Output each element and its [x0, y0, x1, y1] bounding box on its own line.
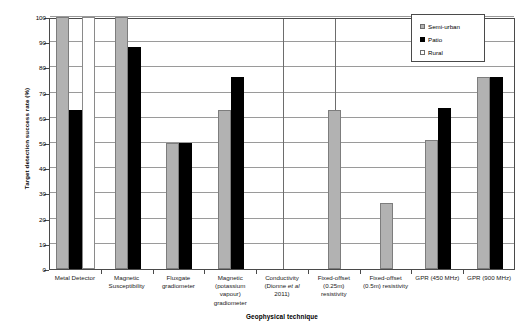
bar: [115, 17, 128, 269]
legend-item-label: Patio: [428, 36, 442, 43]
y-tick-label: 40: [16, 166, 46, 172]
bar: [477, 77, 490, 269]
bar: [328, 110, 341, 269]
bar: [179, 143, 192, 269]
bar: [56, 17, 69, 269]
y-tick-label: 90: [16, 40, 46, 46]
chart-legend: Semi-urbanPatioRural: [411, 14, 485, 62]
x-axis-title: Geophysical technique: [49, 313, 515, 320]
bar: [166, 143, 179, 269]
bar: [490, 77, 503, 269]
bar: [438, 108, 451, 269]
legend-item-label: Rural: [428, 49, 443, 56]
bar: [218, 110, 231, 269]
legend-item: Patio: [420, 33, 484, 46]
legend-item: Semi-urban: [420, 20, 484, 33]
y-tick-label: 80: [16, 65, 46, 71]
bar: [425, 140, 438, 269]
bar-chart: Target detection success rate (%) 010203…: [0, 0, 529, 334]
y-tick-label: 70: [16, 91, 46, 97]
bar: [380, 203, 393, 269]
legend-swatch-icon: [420, 50, 425, 55]
group-separator: [283, 19, 284, 269]
x-category-label: GPR (900 MHz): [457, 274, 521, 282]
bar: [128, 47, 141, 269]
bar: [82, 17, 95, 269]
legend-item-label: Semi-urban: [428, 23, 460, 30]
y-tick-label: 10: [16, 242, 46, 248]
y-tick-label: 100: [16, 15, 46, 21]
y-tick-label: 20: [16, 217, 46, 223]
y-tick-label: 60: [16, 116, 46, 122]
legend-item: Rural: [420, 46, 484, 59]
bar: [69, 110, 82, 269]
y-tick-label: 0: [16, 267, 46, 273]
legend-swatch-icon: [420, 37, 425, 42]
y-axis-title: Target detection success rate (%): [23, 29, 30, 249]
y-tick-label: 30: [16, 191, 46, 197]
legend-swatch-icon: [420, 24, 425, 29]
bar: [231, 77, 244, 269]
y-tick-label: 50: [16, 141, 46, 147]
